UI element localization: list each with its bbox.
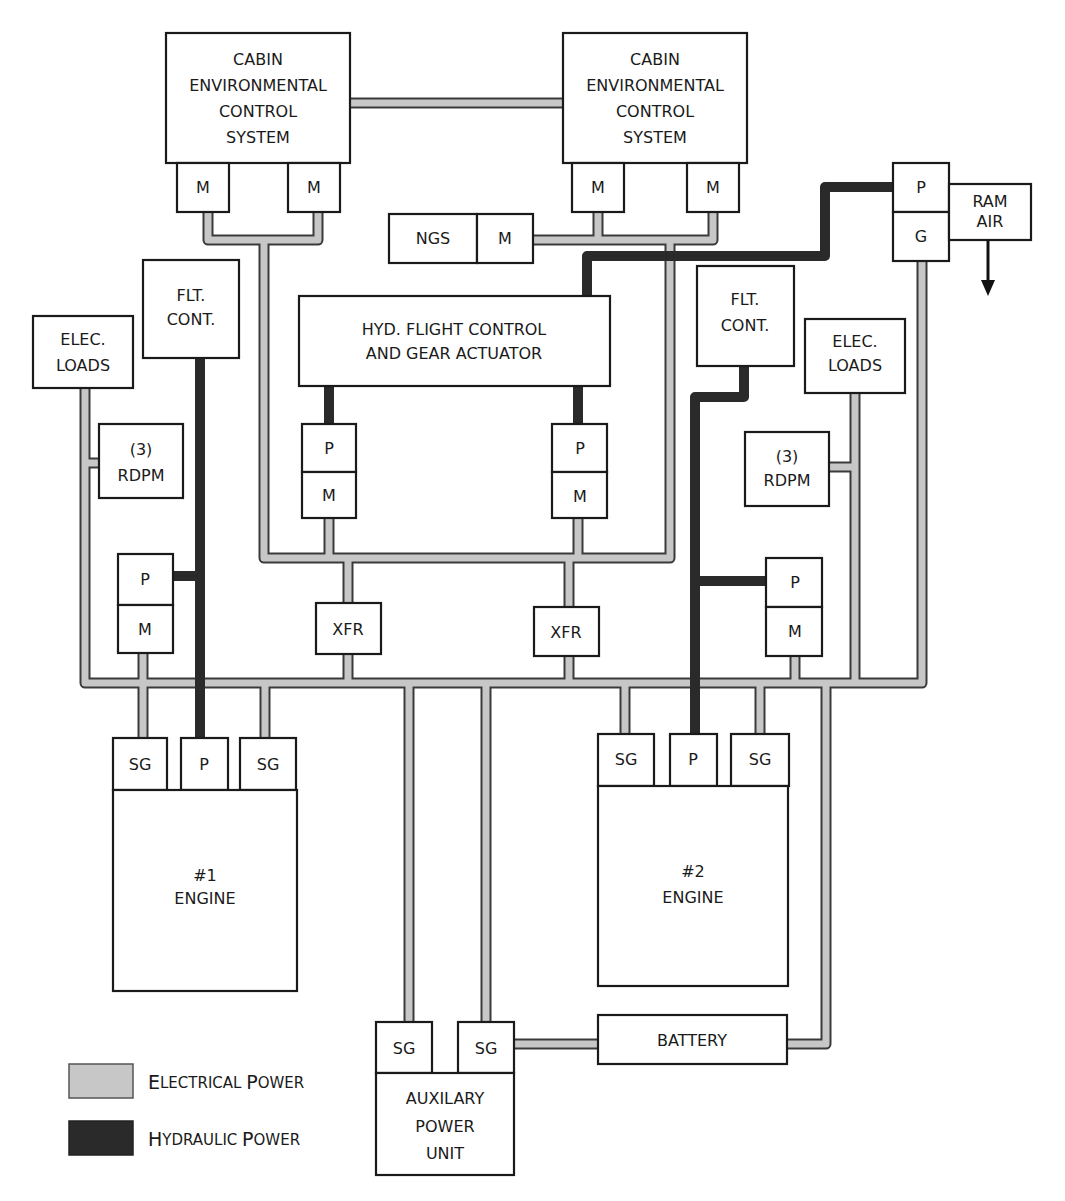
rdpm-left: (3) RDPM	[99, 424, 183, 498]
svg-text:LOADS: LOADS	[828, 356, 882, 375]
svg-text:HYDRAULIC POWER: HYDRAULIC POWER	[148, 1128, 300, 1150]
svg-text:M: M	[138, 620, 152, 639]
hydraulic-swatch	[69, 1121, 133, 1155]
svg-text:CONT.: CONT.	[721, 316, 770, 335]
svg-text:CABIN: CABIN	[630, 50, 680, 69]
svg-text:P: P	[140, 570, 150, 589]
svg-text:M: M	[706, 178, 720, 197]
svg-text:ENVIRONMENTAL: ENVIRONMENTAL	[586, 76, 724, 95]
pump-motor-right: P M	[766, 558, 822, 656]
rdpm-right: (3) RDPM	[745, 432, 829, 506]
svg-text:SG: SG	[615, 750, 638, 769]
power-distribution-diagram: CABIN ENVIRONMENTAL CONTROL SYSTEM M M C…	[0, 0, 1065, 1201]
svg-text:P: P	[688, 750, 698, 769]
svg-text:LOADS: LOADS	[56, 356, 110, 375]
svg-text:P: P	[790, 573, 800, 592]
svg-text:SYSTEM: SYSTEM	[623, 128, 687, 147]
transformer-left: XFR	[316, 603, 381, 654]
svg-text:HYD. FLIGHT CONTROL: HYD. FLIGHT CONTROL	[362, 320, 547, 339]
svg-text:RDPM: RDPM	[764, 471, 811, 490]
svg-text:#2: #2	[681, 862, 705, 881]
electrical-swatch	[69, 1064, 133, 1098]
svg-text:ELEC.: ELEC.	[832, 332, 877, 351]
legend: ELECTRICAL POWER HYDRAULIC POWER	[69, 1064, 304, 1155]
svg-text:ELECTRICAL POWER: ELECTRICAL POWER	[148, 1071, 304, 1093]
svg-text:SG: SG	[393, 1039, 416, 1058]
svg-text:XFR: XFR	[550, 623, 581, 642]
svg-text:M: M	[196, 178, 210, 197]
cecs-left-motor-2: M	[288, 163, 340, 212]
svg-text:FLT.: FLT.	[731, 290, 760, 309]
svg-text:AND GEAR ACTUATOR: AND GEAR ACTUATOR	[366, 344, 542, 363]
svg-text:SG: SG	[749, 750, 772, 769]
svg-text:RAM: RAM	[972, 192, 1007, 211]
svg-text:(3): (3)	[776, 447, 799, 466]
svg-text:SG: SG	[129, 755, 152, 774]
cabin-ecs-left: CABIN ENVIRONMENTAL CONTROL SYSTEM	[166, 33, 350, 163]
svg-text:CABIN: CABIN	[233, 50, 283, 69]
ram-air-arrow-icon	[981, 240, 995, 296]
svg-text:P: P	[199, 755, 209, 774]
svg-text:M: M	[498, 229, 512, 248]
engine-1: SG P SG #1 ENGINE	[113, 738, 297, 991]
svg-text:M: M	[788, 622, 802, 641]
elec-loads-left: ELEC. LOADS	[33, 316, 133, 388]
svg-text:ENGINE: ENGINE	[662, 888, 723, 907]
hyd-flight-control-gear-actuator: HYD. FLIGHT CONTROL AND GEAR ACTUATOR	[299, 296, 610, 386]
svg-text:P: P	[575, 439, 585, 458]
svg-text:M: M	[573, 487, 587, 506]
svg-text:CONTROL: CONTROL	[616, 102, 694, 121]
flight-control-left: FLT. CONT.	[143, 260, 239, 358]
legend-electrical: ELECTRICAL POWER	[69, 1064, 304, 1098]
transformer-right: XFR	[534, 607, 599, 656]
svg-text:ENGINE: ENGINE	[174, 889, 235, 908]
svg-text:BATTERY: BATTERY	[657, 1031, 727, 1050]
actuator-pump-motor-left: P M	[302, 424, 356, 518]
svg-text:SYSTEM: SYSTEM	[226, 128, 290, 147]
svg-text:XFR: XFR	[332, 620, 363, 639]
svg-text:NGS: NGS	[416, 229, 451, 248]
cecs-left-motor-1: M	[177, 163, 229, 212]
svg-text:M: M	[591, 178, 605, 197]
svg-text:M: M	[322, 486, 336, 505]
svg-text:SG: SG	[257, 755, 280, 774]
svg-text:ELEC.: ELEC.	[60, 330, 105, 349]
cecs-right-motor-1: M	[572, 163, 624, 212]
svg-text:AUXILARY: AUXILARY	[406, 1089, 485, 1108]
svg-text:#1: #1	[193, 866, 217, 885]
svg-text:AIR: AIR	[977, 212, 1004, 231]
actuator-pump-motor-right: P M	[552, 424, 607, 518]
svg-text:POWER: POWER	[415, 1117, 474, 1136]
ram-air-turbine: P G RAM AIR	[893, 163, 1031, 261]
svg-text:(3): (3)	[130, 440, 153, 459]
svg-text:SG: SG	[475, 1039, 498, 1058]
svg-text:ENVIRONMENTAL: ENVIRONMENTAL	[189, 76, 327, 95]
pump-motor-left: P M	[118, 554, 173, 653]
elec-loads-right: ELEC. LOADS	[805, 319, 905, 393]
legend-hydraulic: HYDRAULIC POWER	[69, 1121, 300, 1155]
auxiliary-power-unit: SG SG AUXILARY POWER UNIT	[376, 1022, 514, 1175]
svg-text:P: P	[916, 178, 926, 197]
svg-text:RDPM: RDPM	[118, 466, 165, 485]
svg-text:G: G	[915, 227, 927, 246]
battery: BATTERY	[598, 1015, 787, 1064]
svg-text:CONT.: CONT.	[167, 310, 216, 329]
svg-text:FLT.: FLT.	[177, 286, 206, 305]
flight-control-right: FLT. CONT.	[697, 266, 794, 366]
cabin-ecs-right: CABIN ENVIRONMENTAL CONTROL SYSTEM	[563, 33, 747, 163]
svg-text:CONTROL: CONTROL	[219, 102, 297, 121]
svg-text:M: M	[307, 178, 321, 197]
engine-2: SG P SG #2 ENGINE	[598, 734, 789, 986]
cecs-right-motor-2: M	[687, 163, 739, 212]
ngs-unit: NGS M	[389, 214, 533, 263]
svg-text:P: P	[324, 439, 334, 458]
svg-text:UNIT: UNIT	[426, 1144, 464, 1163]
